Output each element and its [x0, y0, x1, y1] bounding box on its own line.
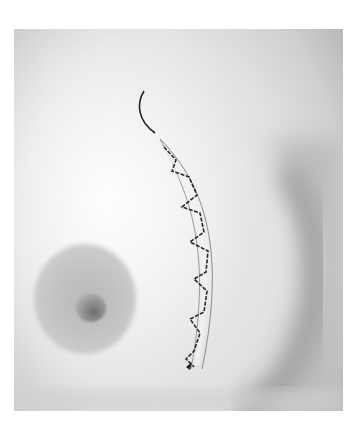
- incision-suture: [14, 29, 343, 411]
- clinical-photo: [14, 29, 343, 411]
- suture-tail: [139, 91, 155, 133]
